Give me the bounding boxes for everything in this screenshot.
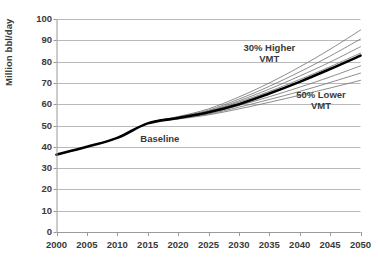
annotation-line: 30% Higher (229, 42, 309, 53)
axis-lines (54, 19, 361, 233)
annotation-line: VMT (229, 53, 309, 64)
chart-annotation-label: 50% LowerVMT (281, 89, 361, 111)
annotation-line: 50% Lower (281, 89, 361, 100)
chart-annotation-label: Baseline (120, 133, 200, 144)
chart-annotation-label: 30% HigherVMT (229, 42, 309, 64)
chart-container: Million bbl/day 0102030405060708090100 2… (0, 0, 378, 268)
gridlines (57, 20, 361, 233)
annotation-line: VMT (281, 100, 361, 111)
